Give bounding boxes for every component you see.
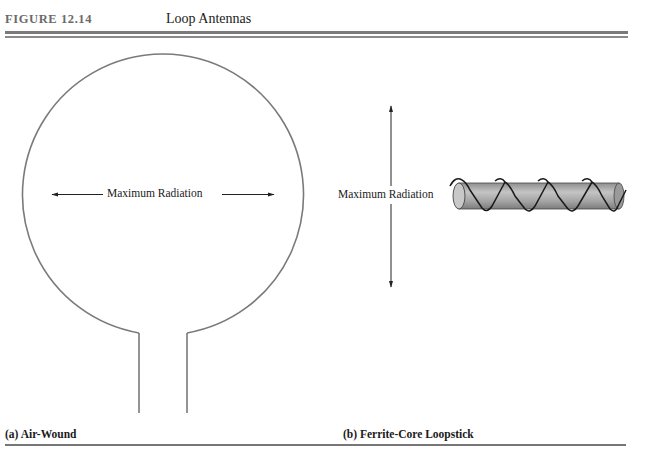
max-radiation-label-a: Maximum Radiation: [107, 187, 203, 199]
air-wound-loop: [23, 54, 304, 413]
loop-leads: [139, 333, 187, 413]
caption-ferrite-core: (b) Ferrite-Core Loopstick: [343, 428, 474, 440]
max-radiation-label-b: Maximum Radiation: [338, 188, 434, 200]
caption-air-wound: (a) Air-Wound: [5, 428, 76, 440]
footer-rule: [5, 444, 626, 446]
diagram-canvas: [0, 0, 660, 462]
